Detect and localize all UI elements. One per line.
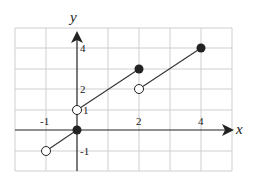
closed-point-4-4 — [197, 44, 206, 53]
closed-point-0-0 — [73, 126, 82, 135]
x-axis-label: x — [235, 121, 243, 137]
open-point-2-2 — [135, 85, 144, 94]
segment-1 — [46, 130, 77, 151]
x-tick-2: 2 — [136, 115, 142, 127]
x-tick-neg1: -1 — [40, 115, 49, 127]
y-tick-neg1: -1 — [80, 145, 89, 157]
y-tick-2: 2 — [80, 83, 86, 95]
y-axis-label: y — [68, 9, 77, 25]
closed-point-2-3 — [135, 65, 144, 74]
segments — [46, 48, 201, 151]
y-tick-4: 4 — [80, 42, 86, 54]
open-point-0-1 — [73, 106, 82, 115]
open-point-neg1-neg1 — [42, 147, 51, 156]
x-tick-4: 4 — [198, 115, 204, 127]
piecewise-graph: y x -1 2 4 4 2 1 -1 — [0, 0, 253, 178]
